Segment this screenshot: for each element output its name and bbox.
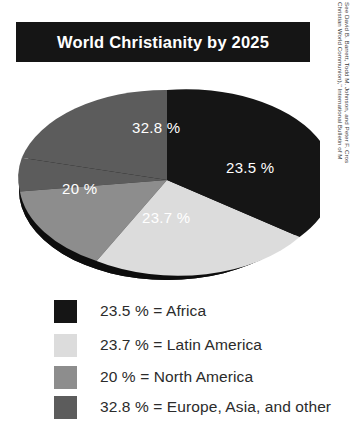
legend-label-europe-asia-other: 32.8 % = Europe, Asia, and other [100, 398, 331, 416]
legend-label-africa: 23.5 % = Africa [100, 302, 206, 320]
legend-item-europe-asia-other: 32.8 % = Europe, Asia, and other [54, 392, 331, 422]
pie-label-latin-america: 23.7 % [142, 209, 191, 226]
legend-item-latin-america: 23.7 % = Latin America [54, 330, 262, 360]
pie-chart-svg: 32.8 % 23.5 % 20 % 23.7 % [14, 86, 320, 286]
pie-label-africa: 23.5 % [226, 159, 275, 176]
legend-swatch-latin-america [54, 334, 77, 357]
pie-label-europe-asia-other: 32.8 % [132, 119, 181, 136]
legend-swatch-europe-asia-other [54, 396, 77, 419]
chart-title-bar: World Christianity by 2025 [16, 22, 310, 62]
legend-label-north-america: 20 % = North America [100, 368, 253, 386]
legend-swatch-north-america [54, 366, 77, 389]
pie-label-north-america: 20 % [62, 180, 97, 197]
legend-item-north-america: 20 % = North America [54, 362, 253, 392]
legend-label-latin-america: 23.7 % = Latin America [100, 336, 262, 354]
pie-chart: 32.8 % 23.5 % 20 % 23.7 % [14, 86, 320, 286]
chart-legend: 23.5 % = Africa 23.7 % = Latin America 2… [0, 292, 352, 434]
legend-swatch-africa [54, 300, 77, 323]
infographic-page: World Christianity by 2025 32.8 % 23.5 %… [0, 0, 352, 434]
legend-item-africa: 23.5 % = Africa [54, 296, 206, 326]
page-title: World Christianity by 2025 [57, 33, 269, 52]
